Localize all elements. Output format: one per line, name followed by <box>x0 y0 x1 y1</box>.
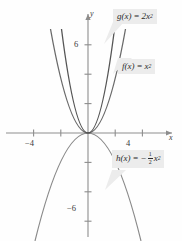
callout-h-sign: − <box>141 154 147 163</box>
callout-g-exponent: 2 <box>150 14 153 20</box>
callout-label-g: g(x) = 2 x 2 <box>113 9 157 24</box>
callout-h-exponent: 2 <box>158 156 161 162</box>
callout-h-numerator: 1 <box>148 152 153 158</box>
tick-label-neg-4: −4 <box>25 138 34 148</box>
callout-h-fraction: 1 2 <box>148 152 153 166</box>
parabola-comparison-figure: y x −4 4 6 −6 g(x) = 2 x 2 f(x) = x 2 h(… <box>0 0 182 241</box>
callout-f-fname: f(x) <box>122 62 135 71</box>
y-axis-label: y <box>90 9 94 18</box>
callout-g-equals: = <box>132 12 142 21</box>
callout-h-denominator: 2 <box>148 160 153 166</box>
callout-h-fname: h(x) <box>116 154 131 163</box>
callout-label-f: f(x) = x 2 <box>118 59 155 74</box>
callout-label-h: h(x) = − 1 2 x 2 <box>112 150 164 168</box>
callout-f-exponent: 2 <box>149 64 152 70</box>
callout-h-equals: = <box>131 154 141 163</box>
callout-tail-g <box>104 22 124 44</box>
x-axis-label: x <box>169 133 173 142</box>
callout-g-fname: g(x) <box>117 12 132 21</box>
tick-label-pos-6: 6 <box>74 39 78 49</box>
plot-canvas <box>0 0 182 241</box>
callout-f-equals: = <box>135 62 145 71</box>
tick-label-neg-6: −6 <box>67 203 76 213</box>
tick-label-pos-4: 4 <box>126 138 130 148</box>
